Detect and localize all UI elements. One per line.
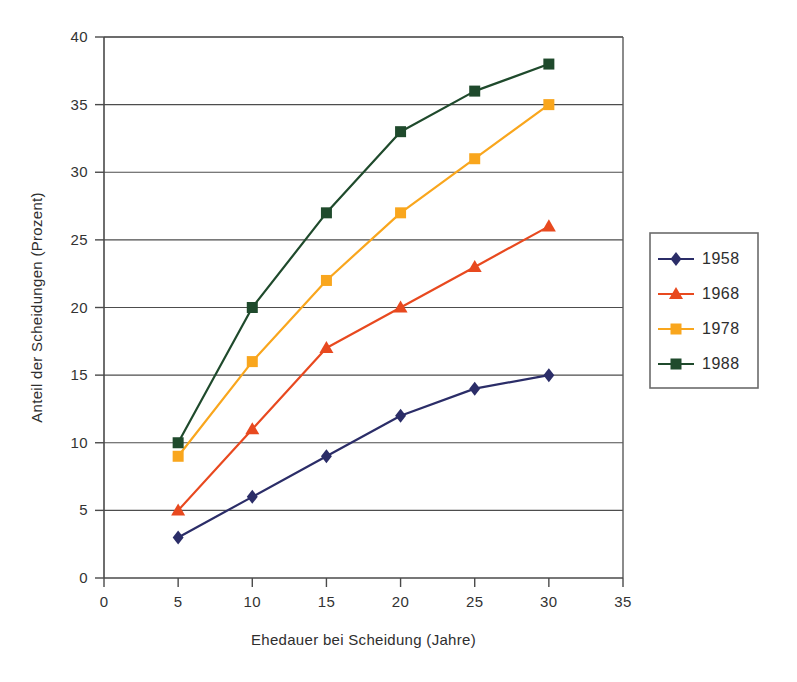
chart-container: 051015202530354005101520253035Ehedauer b… bbox=[0, 0, 797, 682]
line-chart: 051015202530354005101520253035Ehedauer b… bbox=[0, 0, 797, 682]
x-tick-label-20: 20 bbox=[392, 593, 410, 610]
y-axis-ticks: 0510152025303540 bbox=[71, 28, 105, 586]
legend-label-1958: 1958 bbox=[702, 250, 740, 267]
data-point-1958-5 bbox=[173, 530, 184, 544]
x-tick-label-35: 35 bbox=[614, 593, 632, 610]
y-tick-label-5: 5 bbox=[79, 501, 88, 518]
data-point-1958-30 bbox=[543, 368, 554, 382]
legend: 1958196819781988 bbox=[650, 233, 758, 388]
data-point-1978-20 bbox=[395, 207, 406, 218]
data-point-1968-20 bbox=[394, 301, 408, 313]
y-tick-label-0: 0 bbox=[79, 569, 88, 586]
data-point-1978-25 bbox=[469, 153, 480, 164]
legend-label-1978: 1978 bbox=[702, 320, 740, 337]
data-point-1988-10 bbox=[247, 302, 258, 313]
data-point-1988-20 bbox=[395, 126, 406, 137]
legend-marker-1978 bbox=[671, 324, 682, 335]
x-tick-label-15: 15 bbox=[318, 593, 336, 610]
y-tick-label-15: 15 bbox=[71, 366, 89, 383]
data-point-1978-15 bbox=[321, 275, 332, 286]
series-1968 bbox=[171, 219, 556, 515]
series-1958 bbox=[173, 368, 555, 544]
legend-label-1968: 1968 bbox=[702, 285, 740, 302]
data-point-1978-10 bbox=[247, 356, 258, 367]
data-point-1988-25 bbox=[469, 86, 480, 97]
series-line-1978 bbox=[178, 105, 549, 457]
x-tick-label-10: 10 bbox=[244, 593, 262, 610]
y-tick-label-25: 25 bbox=[71, 231, 89, 248]
x-axis-title: Ehedauer bei Scheidung (Jahre) bbox=[251, 631, 476, 648]
data-point-1968-15 bbox=[319, 341, 333, 353]
y-axis-title: Anteil der Scheidungen (Prozent) bbox=[28, 192, 45, 423]
data-point-1988-15 bbox=[321, 207, 332, 218]
data-point-1968-25 bbox=[468, 260, 482, 272]
y-tick-label-35: 35 bbox=[71, 96, 89, 113]
data-point-1978-30 bbox=[543, 99, 554, 110]
data-point-1988-5 bbox=[173, 437, 184, 448]
legend-label-1988: 1988 bbox=[702, 355, 740, 372]
data-point-1978-5 bbox=[173, 451, 184, 462]
series-line-1958 bbox=[178, 375, 549, 537]
x-tick-label-0: 0 bbox=[100, 593, 109, 610]
data-point-1988-30 bbox=[543, 59, 554, 70]
y-tick-label-30: 30 bbox=[71, 163, 89, 180]
y-tick-label-10: 10 bbox=[71, 434, 89, 451]
data-point-1958-10 bbox=[247, 490, 258, 504]
data-point-1958-25 bbox=[469, 382, 480, 396]
x-tick-label-25: 25 bbox=[466, 593, 484, 610]
series-line-1968 bbox=[178, 226, 549, 510]
x-axis-ticks: 05101520253035 bbox=[100, 578, 632, 610]
legend-marker-1988 bbox=[671, 359, 682, 370]
y-tick-label-20: 20 bbox=[71, 299, 89, 316]
data-point-1958-15 bbox=[321, 449, 332, 463]
series-1978 bbox=[173, 99, 555, 462]
data-point-1958-20 bbox=[395, 409, 406, 423]
x-tick-label-5: 5 bbox=[174, 593, 183, 610]
data-point-1968-30 bbox=[542, 219, 556, 231]
x-tick-label-30: 30 bbox=[540, 593, 558, 610]
y-tick-label-40: 40 bbox=[71, 28, 89, 45]
